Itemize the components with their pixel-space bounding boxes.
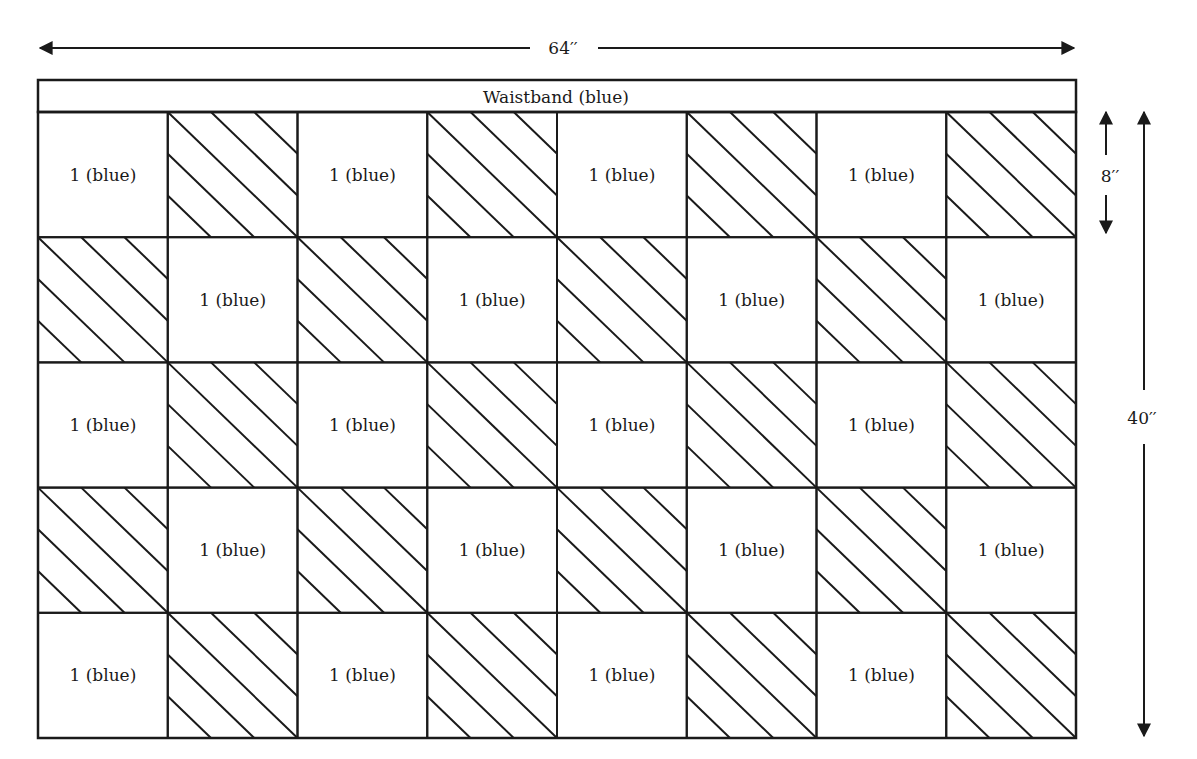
hatch-line [557,529,644,612]
hatch-line [817,279,904,362]
square-label: 1 (blue) [848,165,915,185]
hatch-line [427,195,470,237]
hatch-line [254,112,297,154]
hatch-line [341,237,428,320]
hatch-line [514,112,557,154]
square-label: 1 (blue) [718,540,785,560]
hatch-line [254,362,297,404]
square-label: 1 (blue) [588,165,655,185]
hatch-line [211,112,298,195]
square-height-label: 8′′ [1101,166,1120,186]
hatch-line [38,571,81,613]
hatch-line [946,446,989,488]
hatch-line [773,112,816,154]
hatch-line [427,362,557,487]
hatch-line [644,488,687,530]
hatch-line [817,237,947,362]
hatch-line [687,446,730,488]
hatch-line [38,488,168,613]
hatch-line [384,237,427,279]
hatch-line [38,279,125,362]
hatch-line [427,696,470,738]
square-label: 1 (blue) [199,540,266,560]
hatch-line [990,613,1077,696]
hatch-line [427,404,514,487]
square-label: 1 (blue) [69,415,136,435]
hatch-line [168,696,211,738]
hatch-line [600,488,687,571]
hatch-line [557,237,687,362]
hatch-line [168,112,298,237]
hatch-line [211,613,298,696]
hatch-line [773,613,816,655]
hatch-line [817,488,947,613]
hatch-line [514,362,557,404]
hatch-line [687,613,817,738]
hatch-line [946,655,1033,738]
hatch-line [687,696,730,738]
hatch-line [38,237,168,362]
square-label: 1 (blue) [459,290,526,310]
hatch-line [168,154,255,237]
hatch-line [471,362,558,445]
width-label: 64′′ [544,38,581,58]
square-label: 1 (blue) [329,665,396,685]
hatch-line [946,362,1076,487]
hatch-line [860,488,947,571]
hatch-line [81,237,168,320]
hatch-line [1033,362,1076,404]
square-label: 1 (blue) [329,415,396,435]
hatch-line [730,613,817,696]
square-label: 1 (blue) [978,290,1045,310]
waistband-label: Waistband (blue) [483,87,629,107]
hatch-line [298,488,428,613]
hatch-line [298,237,428,362]
hatch-line [687,112,817,237]
hatch-line [168,362,298,487]
square-label: 1 (blue) [588,415,655,435]
hatch-line [168,404,255,487]
hatch-line [946,613,1076,738]
square-label: 1 (blue) [978,540,1045,560]
hatch-line [817,529,904,612]
hatch-line [38,321,81,363]
hatch-line [298,571,341,613]
hatch-line [687,154,774,237]
hatch-line [471,112,558,195]
hatch-line [687,195,730,237]
hatch-line [946,404,1033,487]
total-height-label: 40′′ [1127,408,1156,428]
hatch-line [644,237,687,279]
hatch-line [990,112,1077,195]
hatch-line [687,655,774,738]
hatch-line [946,112,1076,237]
hatch-line [427,655,514,738]
hatch-line [817,571,860,613]
hatch-line [211,362,298,445]
square-label: 1 (blue) [199,290,266,310]
hatch-line [125,237,168,279]
square-label: 1 (blue) [848,415,915,435]
hatch-line [384,488,427,530]
hatch-line [514,613,557,655]
hatch-line [427,446,470,488]
square-label: 1 (blue) [329,165,396,185]
hatch-line [168,613,298,738]
hatch-line [557,488,687,613]
hatch-line [903,237,946,279]
hatch-line [81,488,168,571]
hatch-line [168,195,211,237]
hatch-line [730,362,817,445]
hatch-line [946,696,989,738]
hatch-line [298,321,341,363]
hatch-line [557,279,644,362]
hatch-line [254,613,297,655]
quilt-skirt-diagram [0,0,1197,759]
hatch-line [427,613,557,738]
hatch-line [860,237,947,320]
hatch-line [600,237,687,320]
square-label: 1 (blue) [69,165,136,185]
hatch-line [168,446,211,488]
square-grid [38,112,1076,738]
hatch-line [427,154,514,237]
